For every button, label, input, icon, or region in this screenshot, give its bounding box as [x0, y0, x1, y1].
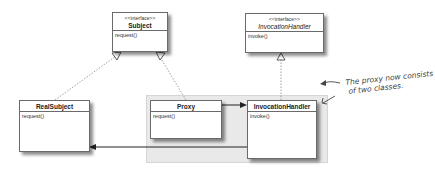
method-request: request()	[20, 112, 89, 120]
class-name: InvocationHandler	[248, 102, 316, 111]
class-name: Proxy	[151, 102, 221, 111]
class-realsubject[interactable]: RealSubject request()	[19, 100, 90, 152]
method-request: request()	[151, 112, 221, 120]
class-subject-interface[interactable]: <<interface>> Subject request()	[112, 12, 168, 52]
method-request: request()	[113, 31, 167, 39]
class-name: Subject	[113, 21, 167, 30]
class-header: <<interface>> Subject	[113, 13, 167, 31]
class-name: InvocationHandler	[246, 22, 323, 31]
class-proxy[interactable]: Proxy request()	[150, 100, 222, 139]
stereotype-label: <<interface>>	[113, 13, 167, 21]
class-header: <<interface>> InvocationHandler	[246, 14, 323, 32]
method-invoke: invoke()	[246, 32, 323, 40]
stereotype-label: <<interface>>	[246, 14, 323, 22]
class-header: InvocationHandler	[248, 101, 316, 112]
class-header: RealSubject	[20, 101, 89, 112]
class-name: RealSubject	[20, 102, 89, 111]
class-invocationhandler-interface[interactable]: <<interface>> InvocationHandler invoke()	[245, 13, 324, 53]
class-header: Proxy	[151, 101, 221, 112]
class-invocationhandler[interactable]: InvocationHandler invoke()	[247, 100, 317, 159]
method-invoke: invoke()	[248, 112, 316, 120]
